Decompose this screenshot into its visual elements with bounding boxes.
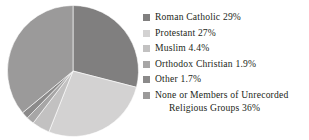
pie-slice-group [7,6,138,137]
legend-swatch-none-unrecorded [143,92,150,99]
legend-item-protestant: Protestant 27% [143,27,309,40]
legend-item-other: Other 1.7% [143,73,309,86]
legend-label-other: Other 1.7% [155,73,309,86]
pie-chart-graphic [7,5,139,137]
legend-item-none-unrecorded: None or Members of UnrecordedReligious G… [143,89,309,114]
legend-label-none-unrecorded-line2: Religious Groups 36% [155,102,309,115]
legend-label-muslim: Muslim 4.4% [155,42,309,55]
legend-label-roman-catholic: Roman Catholic 29% [155,11,309,24]
legend-swatch-muslim [143,45,150,52]
pie-chart-figure: Roman Catholic 29% Protestant 27% Muslim… [0,0,309,140]
legend-label-orthodox-christian: Orthodox Christian 1.9% [155,58,309,71]
legend-item-muslim: Muslim 4.4% [143,42,309,55]
legend-swatch-other [143,76,150,83]
pie-svg [7,5,139,137]
legend-label-none-unrecorded: None or Members of UnrecordedReligious G… [155,89,309,114]
legend-swatch-roman-catholic [143,14,150,21]
legend-item-orthodox-christian: Orthodox Christian 1.9% [143,58,309,71]
legend-swatch-protestant [143,30,150,37]
legend-label-protestant: Protestant 27% [155,27,309,40]
legend-label-none-unrecorded-line1: None or Members of Unrecorded [155,89,288,100]
chart-legend: Roman Catholic 29% Protestant 27% Muslim… [143,11,309,114]
legend-item-roman-catholic: Roman Catholic 29% [143,11,309,24]
legend-swatch-orthodox-christian [143,61,150,68]
